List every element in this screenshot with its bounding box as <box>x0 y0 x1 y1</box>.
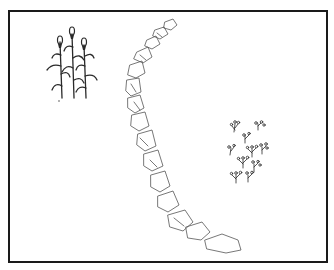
corn-plants-icon <box>47 27 97 102</box>
seedling-cluster-icon <box>228 121 268 183</box>
illustration-canvas <box>0 0 334 270</box>
stone-chain-icon <box>126 19 241 253</box>
